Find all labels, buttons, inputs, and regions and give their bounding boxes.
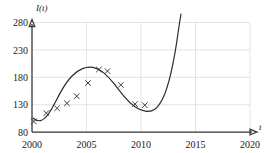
data-point-markers (31, 67, 147, 124)
data-point-marker (55, 106, 60, 111)
x-tick-label-2015: 2015 (186, 139, 206, 150)
y-axis-title: I(t) (35, 3, 48, 13)
y-tick-labels: 280 230 180 130 80 (13, 17, 28, 138)
chart-container: 280 230 180 130 80 2000 2005 2010 2015 2… (0, 0, 266, 153)
data-point-marker (44, 111, 49, 116)
y-tick-label-130: 130 (13, 99, 28, 110)
data-point-marker (105, 69, 110, 74)
x-axis-title: t (259, 122, 262, 132)
y-tick-label-280: 280 (13, 17, 28, 28)
x-axis (32, 129, 257, 135)
x-tick-label-2010: 2010 (131, 139, 151, 150)
y-tick-label-80: 80 (18, 127, 28, 138)
line-chart: 280 230 180 130 80 2000 2005 2010 2015 2… (0, 0, 266, 153)
data-point-marker (133, 102, 138, 107)
y-tick-label-180: 180 (13, 72, 28, 83)
y-axis (29, 20, 35, 133)
data-point-marker (118, 82, 123, 87)
y-tick-label-230: 230 (13, 45, 28, 56)
data-point-marker (142, 103, 147, 108)
data-point-marker (74, 94, 79, 99)
data-point-marker (64, 101, 69, 106)
data-point-marker (96, 67, 101, 72)
x-tick-labels: 2000 2005 2010 2015 2020 (22, 139, 260, 150)
x-tick-label-2020: 2020 (240, 139, 260, 150)
x-tick-label-2005: 2005 (77, 139, 97, 150)
x-tick-label-2000: 2000 (22, 139, 42, 150)
